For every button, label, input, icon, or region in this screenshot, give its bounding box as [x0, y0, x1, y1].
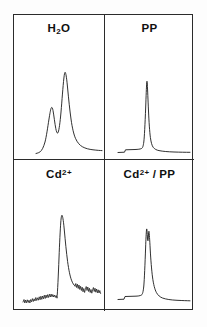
- panel-h2o: H2O: [14, 15, 104, 159]
- trace-h2o: [14, 15, 104, 159]
- figure-container: H2O PP Cd2+: [0, 0, 207, 327]
- trace-cdpp: [105, 160, 194, 311]
- panel-cdpp: Cd2+/PP: [105, 160, 194, 311]
- trace-pp: [105, 15, 194, 159]
- trace-cd: [14, 160, 104, 311]
- figure-frame: H2O PP Cd2+: [13, 14, 193, 310]
- panel-pp: PP: [105, 15, 194, 159]
- panel-cd: Cd2+: [14, 160, 104, 311]
